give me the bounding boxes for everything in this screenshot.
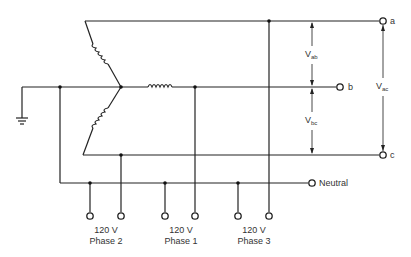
terminal-c[interactable]	[380, 152, 386, 158]
output-terminal[interactable]	[162, 213, 168, 219]
output-phase-label: Phase 3	[237, 236, 270, 246]
output-terminal[interactable]	[87, 213, 93, 219]
winding-a	[85, 21, 379, 87]
terminal-a-label: a	[390, 16, 395, 26]
output-phase-label: Phase 1	[164, 236, 197, 246]
ground-icon	[16, 87, 28, 124]
output-terminals	[87, 213, 272, 219]
junction-dot-icon	[193, 85, 197, 89]
vac-label: Vac	[376, 81, 388, 92]
output-label-phase-2: 120 V Phase 2	[89, 225, 122, 246]
output-terminal[interactable]	[192, 213, 198, 219]
junctions	[58, 19, 271, 185]
terminal-a[interactable]	[380, 18, 386, 24]
output-voltage-label: 120 V	[242, 225, 266, 235]
wye-circuit-diagram: a b c Neutral 120 V Phase 2 120 V Phase …	[0, 0, 411, 257]
junction-dot-icon	[236, 181, 240, 185]
junction-dot-icon	[163, 181, 167, 185]
junction-dot-icon	[119, 153, 123, 157]
line-b	[22, 85, 336, 88]
inductor-coil-icon	[148, 85, 172, 88]
vab-arrow: Vab	[305, 22, 318, 86]
output-voltage-label: 120 V	[169, 225, 193, 235]
junction-dot-icon	[119, 85, 123, 89]
terminal-b[interactable]	[337, 84, 343, 90]
output-terminal[interactable]	[235, 213, 241, 219]
junction-dot-icon	[267, 19, 271, 23]
neutral-line	[60, 87, 308, 183]
terminal-neutral[interactable]	[309, 180, 315, 186]
vab-label: Vab	[305, 49, 318, 60]
inductor-coil-icon	[92, 44, 108, 64]
vbc-label: Vbc	[305, 115, 317, 126]
output-label-phase-3: 120 V Phase 3	[237, 225, 270, 246]
output-terminal[interactable]	[266, 213, 272, 219]
output-phase-label: Phase 2	[89, 236, 122, 246]
output-voltage-label: 120 V	[94, 225, 118, 235]
inductor-coil-icon	[92, 108, 108, 128]
terminal-c-label: c	[390, 150, 395, 160]
output-label-phase-1: 120 V Phase 1	[164, 225, 197, 246]
vac-arrow: Vac	[376, 25, 388, 151]
output-terminal[interactable]	[118, 213, 124, 219]
terminal-b-label: b	[348, 82, 353, 92]
terminal-neutral-label: Neutral	[319, 178, 348, 188]
junction-dot-icon	[58, 85, 62, 89]
winding-c	[83, 87, 379, 155]
vbc-arrow: Vbc	[305, 88, 317, 154]
junction-dot-icon	[88, 181, 92, 185]
